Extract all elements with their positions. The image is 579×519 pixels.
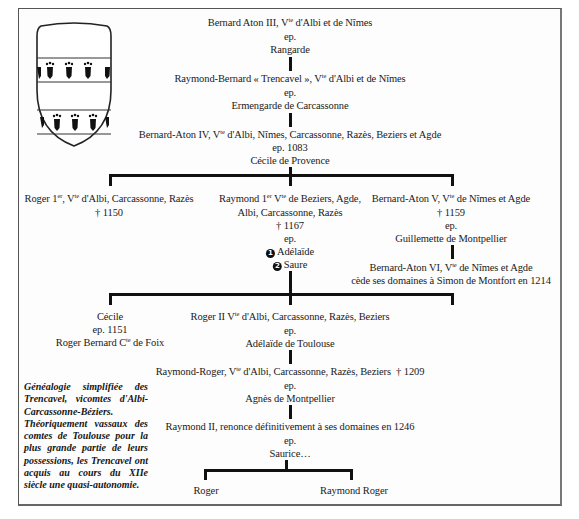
title: de Nîmes et Agde <box>457 262 533 273</box>
spouse-agnes-de-montpellier: Agnès de Montpellier <box>245 392 335 405</box>
descent-line <box>289 57 292 71</box>
death-year: † 1159 <box>437 206 465 219</box>
name: Raymond 1 <box>219 193 267 204</box>
sibling-bracket <box>109 293 454 296</box>
descent-line <box>289 350 292 364</box>
title-line: Albi, Carcassonne, Razès <box>238 206 343 219</box>
marriage-label: ep. <box>284 434 296 447</box>
title: d'Albi, Carcassonne, Razès, Beziers <box>239 311 389 322</box>
descent-line <box>451 245 454 259</box>
person-bernard-aton-vi: Bernard-Aton VI, Vte de Nîmes et Agde <box>369 261 532 274</box>
sibling-bracket <box>109 174 454 177</box>
circled-number-icon: 1 <box>266 249 275 258</box>
title: d'Albi, Carcassonne, Razès, Beziers † 12… <box>241 366 425 377</box>
bracket-drop <box>204 469 207 480</box>
title: V <box>272 193 282 204</box>
spouse-saurice: Saurice… <box>269 447 310 460</box>
spouse-name: Saure <box>284 259 307 270</box>
marriage-label: ep. <box>284 30 296 43</box>
marriage-label: ep. <box>284 324 296 337</box>
title: d'Albi et de Nîmes <box>293 17 372 28</box>
person-raymond-ii: Raymond II, renonce définitivement à ses… <box>166 420 415 433</box>
title: d'Albi, Nîmes, Carcassonne, Razès, Bezie… <box>225 129 441 140</box>
descent-line <box>289 405 292 419</box>
circled-number-icon: 2 <box>273 262 282 271</box>
spouse-ermengarde: Ermengarde de Carcassonne <box>231 99 348 112</box>
spouse-cecile-de-provence: Cécile de Provence <box>250 154 329 167</box>
title: de Nîmes et Agde <box>454 193 530 204</box>
name: Roger Bernard C <box>56 337 126 348</box>
person-raymond-roger: Raymond-Roger, Vte d'Albi, Carcassonne, … <box>156 365 425 378</box>
spouse-guillemette: Guillemette de Montpellier <box>395 232 507 245</box>
name: Raymond-Bernard « Trencavel », V <box>174 73 321 84</box>
sibling-bracket <box>204 469 353 472</box>
name: Roger II V <box>190 311 234 322</box>
marriage-label: ep. <box>284 379 296 392</box>
person-bernard-aton-v: Bernard-Aton V, Vte de Nîmes et Agde <box>372 192 530 205</box>
spouse-rangarde: Rangarde <box>270 43 309 56</box>
descent-line <box>289 113 292 127</box>
bracket-drop <box>109 293 112 305</box>
marriage-label: ep. 1083 <box>272 141 307 154</box>
bracket-drop <box>109 174 112 186</box>
name: Bernard-Aton V, V <box>372 193 450 204</box>
name: Roger 1 <box>25 193 58 204</box>
name: Bernard Aton III, V <box>208 17 289 28</box>
spouse-adelaide: 1Adélaïde <box>266 245 314 258</box>
person-raymond-roger-son: Raymond Roger <box>320 484 388 497</box>
person-bernard-aton-iv: Bernard-Aton IV, Vte d'Albi, Nîmes, Carc… <box>139 128 441 141</box>
person-cecile: Cécile <box>97 310 123 323</box>
name: Bernard-Aton IV, V <box>139 129 221 140</box>
person-roger-1er: Roger 1er, Vte d'Albi, Carcassonne, Razè… <box>25 192 194 205</box>
note: cède ses domaines à Simon de Montfort en… <box>351 274 551 287</box>
person-raymond-1er: Raymond 1er Vte de Beziers, Agde, <box>219 192 361 205</box>
spouse-name: Adélaïde <box>277 246 314 257</box>
title: , V <box>62 193 74 204</box>
bracket-drop <box>289 293 292 305</box>
marriage-label: ep. <box>445 219 457 232</box>
person-roger-ii: Roger II Vte d'Albi, Carcassonne, Razès,… <box>190 310 389 323</box>
marriage-label: ep. <box>284 232 296 245</box>
marriage-label: ep. <box>284 86 296 99</box>
spouse-saure: 2Saure <box>273 258 307 271</box>
title: de Beziers, Agde, <box>286 193 361 204</box>
bracket-drop <box>350 469 353 480</box>
bracket-drop <box>451 174 454 186</box>
person-roger: Roger <box>193 484 218 497</box>
marriage-label: ep. 1151 <box>93 323 128 336</box>
person-bernard-aton-iii: Bernard Aton III, Vte d'Albi et de Nîmes <box>208 16 373 29</box>
name: Raymond-Roger, V <box>156 366 237 377</box>
title: d'Albi et de Nîmes <box>326 73 405 84</box>
death-year: † 1150 <box>95 206 123 219</box>
name: Bernard-Aton VI, V <box>369 262 452 273</box>
bracket-drop <box>451 293 454 305</box>
spouse-adelaide-de-toulouse: Adélaïde de Toulouse <box>245 337 334 350</box>
spouse-roger-bernard: Roger Bernard Cte de Foix <box>56 336 164 349</box>
title: d'Albi, Carcassonne, Razès <box>79 193 193 204</box>
person-raymond-bernard-trencavel: Raymond-Bernard « Trencavel », Vte d'Alb… <box>174 72 405 85</box>
shield-icon <box>33 20 115 148</box>
title: de Foix <box>131 337 165 348</box>
death-year: † 1167 <box>276 219 304 232</box>
figure-caption: Généalogie simplifiée des Trencavel, vic… <box>24 381 148 492</box>
